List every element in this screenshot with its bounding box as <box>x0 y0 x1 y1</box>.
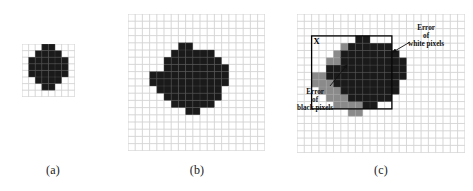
pixel-cell-black <box>164 57 171 64</box>
pixel-cell-black <box>29 57 36 64</box>
pixel-cell-black <box>164 93 171 100</box>
pixel-cell-black <box>48 77 55 84</box>
pixel-cell-black <box>157 86 164 93</box>
pixel-cell-black <box>48 84 55 91</box>
pixel-cell-black <box>207 93 214 100</box>
pixel-cell-black <box>193 100 200 107</box>
pixel-cell-black <box>42 64 49 71</box>
pixel-cell-black <box>193 108 200 115</box>
pixel-cell-black <box>35 70 42 77</box>
pixel-cell-black <box>42 44 49 51</box>
pixel-cell-black <box>193 57 200 64</box>
reference-box-label-x: X <box>314 37 320 46</box>
pixel-cell-black <box>150 79 157 86</box>
pixel-cell-black <box>186 64 193 71</box>
pixel-cell-black <box>178 79 185 86</box>
pixel-cell-black <box>178 86 185 93</box>
pixel-cell-black <box>200 57 207 64</box>
annotation-black-line-1: Error <box>297 88 333 96</box>
pixel-cell-black <box>48 51 55 58</box>
pixel-cell-black <box>214 64 221 71</box>
annotation-white-line-1: Error <box>408 24 444 32</box>
pixel-cell-black <box>214 72 221 79</box>
annotation-white-line-2: of <box>408 32 444 40</box>
pixel-cell-black <box>171 79 178 86</box>
pixel-cell-black <box>55 70 62 77</box>
pixel-cell-black <box>193 79 200 86</box>
pixel-cell-black <box>164 64 171 71</box>
pixel-cell-black <box>62 64 69 71</box>
pixel-cell-black <box>186 43 193 50</box>
pixel-cell-black <box>207 86 214 93</box>
pixel-cell-black <box>48 44 55 51</box>
pixel-cell-black <box>55 51 62 58</box>
pixel-cell-black <box>207 57 214 64</box>
pixel-cell-black <box>186 72 193 79</box>
pixel-cell-black <box>178 64 185 71</box>
pixel-cell-black <box>193 50 200 57</box>
pixel-cell-black <box>48 57 55 64</box>
pixel-cell-black <box>157 72 164 79</box>
annotation-error-of-white-pixels: Error of white pixels <box>408 24 444 49</box>
pixel-cell-black <box>42 57 49 64</box>
pixel-cell-black <box>186 93 193 100</box>
pixel-cell-black <box>200 79 207 86</box>
pixel-cell-black <box>193 93 200 100</box>
pixel-cell-black <box>55 77 62 84</box>
figure-root: X Error of white pixels Error of black p… <box>0 0 473 191</box>
pixel-cell-black <box>55 64 62 71</box>
pixel-cell-black <box>193 64 200 71</box>
pixel-cell-black <box>207 100 214 107</box>
annotation-black-line-2: of <box>297 96 333 104</box>
pixel-cell-black <box>200 100 207 107</box>
pixel-cell-black <box>222 79 229 86</box>
pixel-cell-black <box>222 72 229 79</box>
cells-b <box>128 14 265 151</box>
pixel-cell-black <box>29 70 36 77</box>
pixel-cell-black <box>200 50 207 57</box>
pixel-cell-black <box>193 86 200 93</box>
pixel-cell-black <box>178 50 185 57</box>
pixel-cell-black <box>186 108 193 115</box>
pixel-cell-black <box>164 79 171 86</box>
pixel-cell-black <box>29 64 36 71</box>
annotation-error-of-black-pixels: Error of black pixels <box>297 88 333 113</box>
pixel-cell-black <box>48 70 55 77</box>
pixel-cell-black <box>178 43 185 50</box>
pixel-cell-black <box>42 70 49 77</box>
pixel-cell-black <box>42 77 49 84</box>
pixel-cell-black <box>222 64 229 71</box>
pixel-cell-black <box>193 72 200 79</box>
annotation-black-line-3: black pixels <box>297 104 333 112</box>
pixel-cell-black <box>171 86 178 93</box>
pixel-cell-black <box>178 72 185 79</box>
pixel-cell-black <box>207 72 214 79</box>
pixel-cell-black <box>200 86 207 93</box>
caption-panel-b: (b) <box>166 163 228 178</box>
pixel-cell-black <box>42 84 49 91</box>
pixel-cell-black <box>62 57 69 64</box>
pixel-cell-black <box>200 93 207 100</box>
pixel-cell-black <box>186 79 193 86</box>
pixel-cell-black <box>157 79 164 86</box>
pixel-cell-black <box>186 50 193 57</box>
pixel-cell-black <box>186 57 193 64</box>
cell-seams <box>22 44 75 97</box>
pixel-cell-black <box>171 93 178 100</box>
pixel-cell-black <box>35 77 42 84</box>
pixel-cell-black <box>178 93 185 100</box>
pixel-cell-black <box>35 51 42 58</box>
pixel-cell-black <box>214 86 221 93</box>
annotation-white-line-3: white pixels <box>408 40 444 48</box>
pixel-cell-black <box>35 64 42 71</box>
pixel-cell-black <box>62 70 69 77</box>
pixel-cell-black <box>207 64 214 71</box>
pixel-cell-black <box>178 57 185 64</box>
pixel-cell-black <box>171 100 178 107</box>
pixel-cell-black <box>171 50 178 57</box>
cells-a <box>22 44 75 97</box>
panel-a <box>22 44 75 97</box>
pixel-cell-black <box>150 72 157 79</box>
pixel-cell-black <box>171 57 178 64</box>
pixel-cell-black <box>171 64 178 71</box>
